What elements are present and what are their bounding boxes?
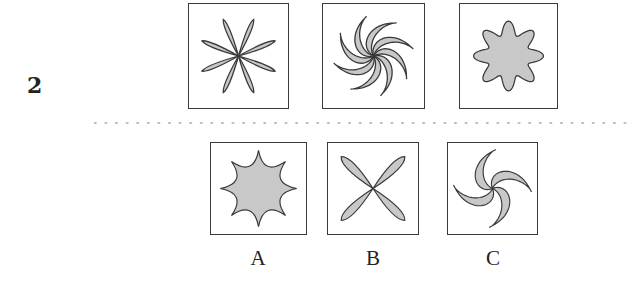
eight-arm-swirl-icon [323, 4, 424, 108]
sequence-figure-2 [322, 3, 425, 109]
petal [341, 157, 373, 189]
option-c-figure[interactable] [447, 142, 538, 235]
option-b-figure[interactable] [327, 142, 419, 235]
petal [341, 189, 373, 221]
star [220, 150, 296, 226]
eight-point-star-icon [211, 143, 306, 234]
eight-petal-flower-icon [189, 4, 288, 108]
blob [474, 21, 544, 91]
option-b-label[interactable]: B [358, 246, 388, 271]
sequence-figure-3 [459, 3, 558, 109]
option-c-label[interactable]: C [478, 246, 508, 271]
dotted-divider [90, 122, 633, 124]
eight-lobe-blob-icon [460, 4, 557, 108]
question-number: 2 [27, 72, 42, 98]
petal [373, 189, 405, 221]
four-arm-swirl-icon [448, 143, 537, 234]
petal [373, 157, 405, 189]
sequence-figure-1 [188, 3, 289, 109]
four-petal-flower-icon [328, 143, 418, 234]
option-a-figure[interactable] [210, 142, 307, 235]
option-a-label[interactable]: A [243, 246, 273, 271]
